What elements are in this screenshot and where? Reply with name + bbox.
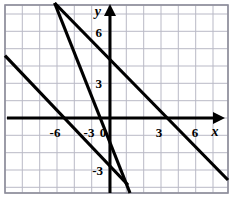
coordinate-plane-svg: -6 -3 3 6 0 6 3 -3 x y <box>0 0 235 198</box>
origin-label: 0 <box>100 125 107 140</box>
plot-background <box>5 5 228 193</box>
y-tick-label-6: 6 <box>96 25 103 40</box>
y-tick-label-neg3: -3 <box>92 163 103 178</box>
coordinate-graph-figure: -6 -3 3 6 0 6 3 -3 x y <box>0 0 235 198</box>
y-axis-label: y <box>93 4 102 19</box>
x-tick-label-neg6: -6 <box>50 125 61 140</box>
x-tick-label-neg3: -3 <box>84 125 95 140</box>
x-axis-label: x <box>211 124 219 139</box>
x-tick-label-3: 3 <box>156 125 163 140</box>
y-tick-label-3: 3 <box>96 76 103 91</box>
x-tick-label-6: 6 <box>192 125 199 140</box>
